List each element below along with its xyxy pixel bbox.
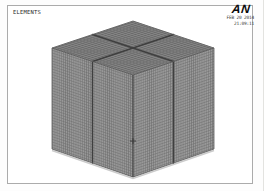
meshed-cube: [52, 21, 214, 179]
plot-type-label: ELEMENTS: [13, 9, 41, 15]
ansys-graphics-window: ELEMENTS AN FEB 20 2014 21:09:11: [0, 0, 263, 191]
time-text: 21:09:11: [226, 21, 254, 27]
mesh-cube-viewport[interactable]: [0, 0, 263, 191]
date-time-stamp: FEB 20 2014 21:09:11: [226, 15, 254, 27]
ansys-logo: AN: [231, 2, 251, 16]
